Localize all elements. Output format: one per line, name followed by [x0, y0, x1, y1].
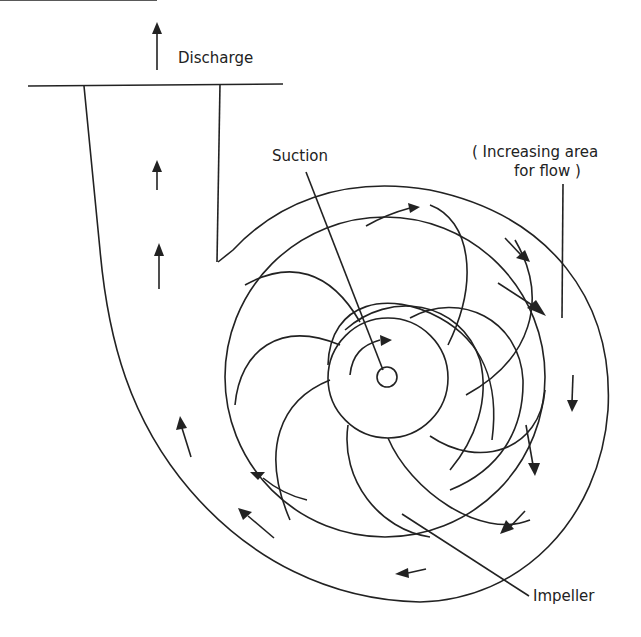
discharge-arrow-head — [152, 22, 162, 34]
flow-arrows — [0, 0, 578, 578]
suction-label: Suction — [272, 148, 328, 165]
impeller-label: Impeller — [533, 588, 595, 605]
increasing-area-label-line2: for flow ) — [514, 163, 581, 180]
suction-pointer — [306, 172, 383, 370]
shaft-hub — [377, 367, 397, 387]
pump-diagram — [0, 0, 641, 637]
increasing-area-label-line1: ( Increasing area — [472, 144, 598, 161]
discharge-flange-line — [28, 84, 283, 86]
discharge-label: Discharge — [178, 50, 253, 67]
impeller-eye-circle — [328, 318, 448, 438]
area-pointer — [562, 184, 563, 318]
volute-inner-discharge-wall — [217, 84, 220, 262]
impeller-outer-circle — [225, 217, 545, 537]
